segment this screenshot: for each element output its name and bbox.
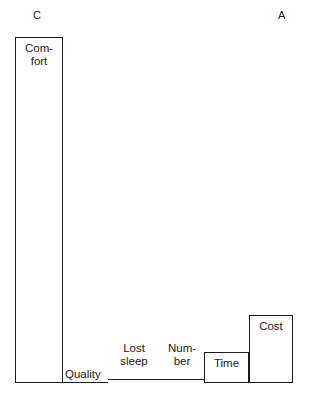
bar-label-quality: Quality [65,368,109,381]
bar-quality [63,382,108,383]
axis-label-right-a: A [278,10,285,21]
bar-label-lost-sleep: Lost sleep [110,342,158,368]
bar-label-comfort: Com- fort [19,42,59,68]
bar-label-time: Time [206,357,247,370]
mekko-chart-figure: C A Com- fortQualityLost sleepNum- berTi… [0,0,312,407]
bar-label-number: Num- ber [159,342,205,368]
bar-number [160,379,204,383]
axis-label-left-c: C [33,10,41,21]
bar-lost-sleep [108,379,160,383]
bar-comfort [15,37,63,383]
bar-label-cost: Cost [251,320,291,333]
